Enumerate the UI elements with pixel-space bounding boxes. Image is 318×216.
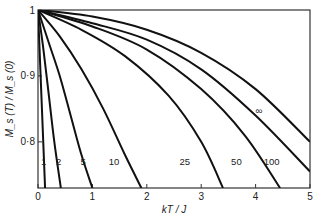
curve-∞ (38, 10, 310, 142)
y-tick-label: 0·8 (21, 136, 36, 147)
x-tick-label: 0 (35, 191, 41, 202)
x-tick-label: 1 (90, 191, 96, 202)
x-tick-label: 2 (144, 191, 150, 202)
curve-label: 25 (179, 156, 190, 167)
x-tick-label: 5 (307, 191, 313, 202)
y-tick-label: 1 (29, 5, 35, 16)
chart: 0123450·80·91kT / JM_s (T) / M_s (0)1251… (0, 0, 318, 216)
curve-label: ∞ (256, 105, 263, 116)
x-tick-label: 3 (198, 191, 204, 202)
curve-label: 100 (264, 156, 280, 167)
x-tick-label: 4 (253, 191, 259, 202)
curve-label: 5 (80, 156, 85, 167)
curve-50 (38, 10, 280, 188)
curve-10 (38, 10, 141, 188)
curve-label: 1 (41, 156, 46, 167)
y-tick-label: 0·9 (21, 70, 36, 81)
curve-label: 2 (56, 156, 61, 167)
curve-label: 50 (231, 156, 242, 167)
curve-label: 10 (109, 156, 120, 167)
x-axis-label: kT / J (162, 204, 187, 215)
y-axis-label: M_s (T) / M_s (0) (4, 61, 15, 138)
